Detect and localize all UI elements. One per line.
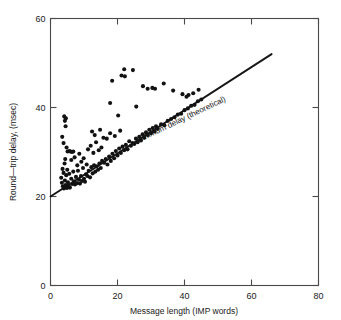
- x-tick-label: 60: [246, 291, 256, 301]
- data-point: [199, 97, 203, 101]
- data-point: [98, 128, 102, 132]
- x-tick-label: 0: [48, 291, 53, 301]
- data-point: [134, 105, 138, 109]
- x-tick-label: 40: [179, 291, 189, 301]
- y-tick-label: 0: [40, 281, 45, 291]
- x-axis-title: Message length (IMP words): [130, 306, 238, 316]
- data-point: [79, 160, 83, 164]
- data-point: [119, 151, 123, 155]
- data-point: [91, 151, 95, 155]
- data-point: [114, 149, 118, 153]
- data-point: [94, 140, 98, 144]
- data-point: [60, 135, 64, 139]
- data-point: [113, 134, 117, 138]
- data-point: [81, 166, 85, 170]
- data-point: [64, 124, 68, 128]
- data-point: [82, 156, 86, 160]
- data-point: [64, 116, 68, 120]
- data-point: [180, 92, 184, 96]
- data-point: [162, 81, 166, 85]
- data-point: [146, 87, 150, 91]
- data-point: [89, 144, 93, 148]
- x-tick-label: 20: [112, 291, 122, 301]
- data-point: [107, 154, 111, 158]
- data-point: [123, 74, 127, 78]
- plot-frame: [51, 19, 319, 286]
- data-point: [171, 89, 175, 93]
- data-point: [109, 159, 113, 163]
- data-point: [75, 163, 79, 167]
- y-tick-label: 20: [35, 192, 45, 202]
- data-point: [110, 79, 114, 83]
- y-tick-label: 60: [35, 14, 45, 24]
- data-point: [68, 186, 72, 190]
- data-point: [115, 154, 119, 158]
- axis-tick-labels: 0204060800204060: [35, 14, 323, 301]
- data-point: [110, 152, 114, 156]
- line-annotation-label: Minimum delay (theoretical): [135, 94, 228, 145]
- data-point: [112, 156, 116, 160]
- data-point: [108, 131, 112, 135]
- data-point: [85, 162, 89, 166]
- data-point: [73, 155, 77, 159]
- data-point: [118, 129, 122, 133]
- data-point: [105, 137, 109, 141]
- data-point: [105, 162, 109, 166]
- data-point: [126, 147, 130, 151]
- data-points: [59, 67, 203, 190]
- data-point: [63, 162, 67, 166]
- data-point: [67, 172, 71, 176]
- data-point: [62, 141, 66, 145]
- data-point: [90, 129, 94, 133]
- data-point: [63, 157, 67, 161]
- data-point: [191, 91, 195, 95]
- data-point: [76, 169, 80, 173]
- data-point: [131, 68, 135, 72]
- data-point: [65, 168, 69, 172]
- data-point: [124, 143, 128, 147]
- data-point: [69, 158, 73, 162]
- data-point: [186, 93, 190, 97]
- data-point: [59, 176, 63, 180]
- x-tick-label: 80: [313, 291, 323, 301]
- data-point: [66, 180, 70, 184]
- data-point: [122, 67, 126, 71]
- data-point: [88, 175, 92, 179]
- data-point: [86, 147, 90, 151]
- figure-container: 0204060800204060 Minimum delay (theoreti…: [0, 0, 341, 320]
- data-point: [108, 101, 112, 105]
- data-point: [61, 167, 65, 171]
- minimum-delay-annotation: Minimum delay (theoretical): [135, 94, 228, 145]
- data-point: [99, 166, 103, 170]
- y-axis-title: Round—trip delay, (msec): [8, 103, 18, 201]
- data-point: [99, 146, 103, 150]
- data-point: [77, 152, 81, 156]
- axis-ticks: [51, 19, 319, 286]
- data-point: [141, 84, 145, 88]
- data-point: [71, 150, 75, 154]
- data-point: [93, 133, 97, 137]
- data-point: [87, 169, 91, 173]
- data-point: [197, 88, 201, 92]
- data-point: [83, 180, 87, 184]
- y-tick-label: 40: [35, 103, 45, 113]
- scatter-plot: 0204060800204060 Minimum delay (theoreti…: [0, 0, 341, 320]
- data-point: [104, 157, 108, 161]
- data-point: [153, 87, 157, 91]
- data-point: [193, 103, 197, 107]
- data-point: [71, 170, 75, 174]
- data-point: [65, 146, 69, 150]
- data-point: [116, 113, 120, 117]
- plot-border: [51, 19, 319, 286]
